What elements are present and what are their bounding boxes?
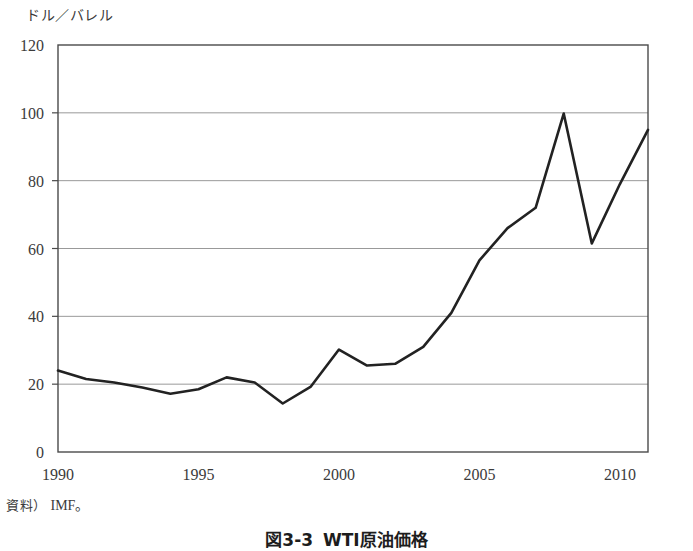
- y-axis-tick-label: 80: [28, 173, 44, 190]
- y-axis-tick-label: 120: [20, 37, 44, 54]
- source-note-label: 資料）: [6, 498, 47, 513]
- x-axis-tick-labels: 19901995200020052010: [42, 466, 636, 483]
- y-axis-tick-labels: 020406080100120: [20, 37, 44, 461]
- plot-area: 020406080100120 19901995200020052010: [0, 22, 693, 492]
- x-axis-tick-label: 2010: [604, 466, 636, 483]
- figure-caption: 図3-3WTI原油価格: [0, 526, 693, 551]
- data-series-line: [58, 114, 648, 404]
- source-note: 資料）IMF。: [6, 494, 89, 514]
- y-axis-tick-label: 100: [20, 105, 44, 122]
- figure-caption-title: WTI原油価格: [323, 530, 428, 550]
- y-axis-tick-label: 20: [28, 376, 44, 393]
- x-axis-tick-label: 2000: [323, 466, 355, 483]
- x-axis-tick-label: 2005: [463, 466, 495, 483]
- source-note-value: IMF。: [51, 498, 90, 513]
- series-wti-crude-oil-price: [58, 114, 648, 404]
- x-axis-tick-label: 1990: [42, 466, 74, 483]
- figure-caption-number: 図3-3: [265, 530, 313, 550]
- x-axis-tick-label: 1995: [182, 466, 214, 483]
- y-axis-tick-label: 60: [28, 241, 44, 258]
- y-axis-tick-label: 40: [28, 308, 44, 325]
- gridlines-group: [58, 113, 648, 384]
- line-chart-svg: 020406080100120 19901995200020052010: [0, 22, 693, 492]
- y-axis-ticks: [52, 113, 58, 384]
- y-axis-tick-label: 0: [36, 444, 44, 461]
- y-axis-unit-label: ドル／バレル: [26, 4, 113, 24]
